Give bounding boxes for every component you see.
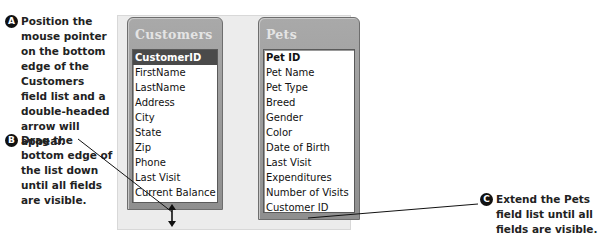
double-headed-arrow-icon: [168, 204, 176, 227]
annotation-overlay: [0, 0, 615, 251]
leader-line-c: [308, 204, 478, 218]
leader-line-a: [78, 139, 172, 212]
